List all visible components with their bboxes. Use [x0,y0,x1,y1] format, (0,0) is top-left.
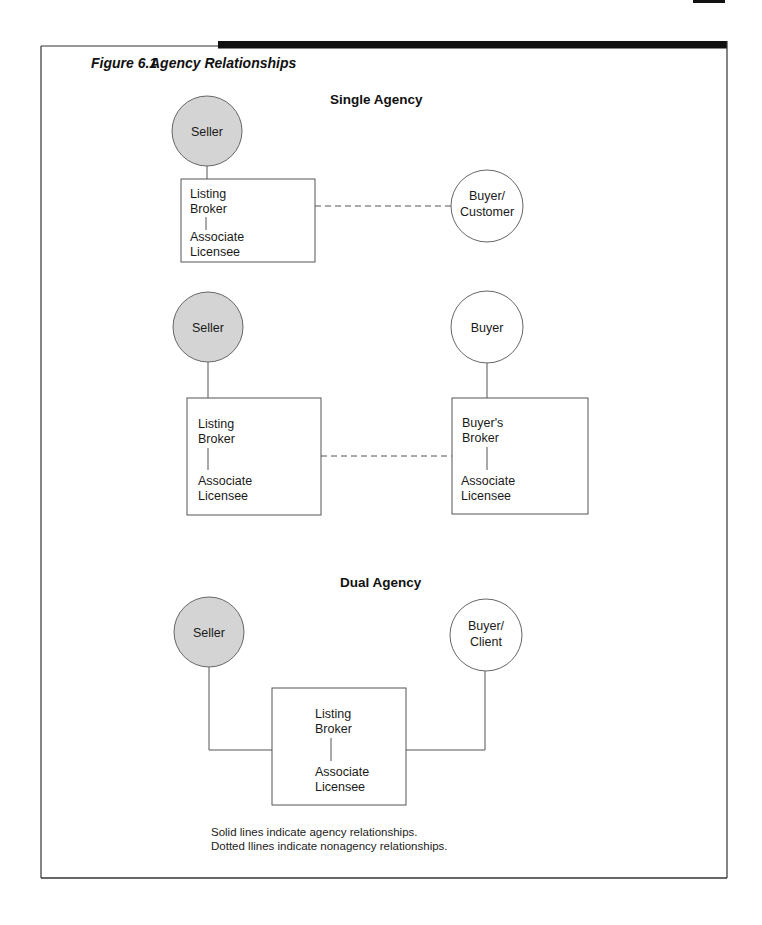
associate-label: Associate [461,474,515,488]
figure-title: Agency Relationships [149,55,296,71]
page-corner-mark [693,0,725,3]
broker-label: Broker [315,722,352,736]
buyer-label: Buyer [471,321,504,335]
legend-solid: Solid lines indicate agency relationship… [211,826,417,838]
buyers-label: Buyer's [462,416,503,430]
section-heading-single-agency: Single Agency [330,92,423,107]
agency-relationships-figure: Figure 6.1 Agency Relationships Single A… [0,0,762,925]
buyer-label: Buyer/ [469,189,506,203]
licensee-label: Licensee [461,489,511,503]
licensee-label: Licensee [315,780,365,794]
broker-label: Broker [190,202,227,216]
listing-label: Listing [198,417,234,431]
seller-label: Seller [191,125,223,139]
header-bar [218,41,727,49]
listing-label: Listing [190,187,226,201]
section-heading-dual-agency: Dual Agency [340,575,422,590]
broker-label: Broker [462,431,499,445]
seller-label: Seller [193,626,225,640]
associate-label: Associate [315,765,369,779]
seller-label: Seller [192,321,224,335]
client-label: Client [470,635,502,649]
agency-solid-line-seller [209,667,272,750]
customer-label: Customer [460,205,514,219]
licensee-label: Licensee [198,489,248,503]
dual-agency-diagram: Seller Listing Broker Associate Licensee… [174,597,522,805]
buyer-label: Buyer/ [468,619,505,633]
listing-label: Listing [315,707,351,721]
legend-dotted: Dotted llines indicate nonagency relatio… [211,840,448,852]
single-agency-diagram-2: Seller Listing Broker Associate Licensee… [173,291,588,515]
single-agency-diagram-1: Seller Listing Broker Associate Licensee… [172,96,523,262]
licensee-label: Licensee [190,245,240,259]
agency-solid-line-buyer [406,671,485,750]
associate-label: Associate [190,230,244,244]
figure-number: Figure 6.1 [91,55,157,71]
broker-label: Broker [198,432,235,446]
associate-label: Associate [198,474,252,488]
